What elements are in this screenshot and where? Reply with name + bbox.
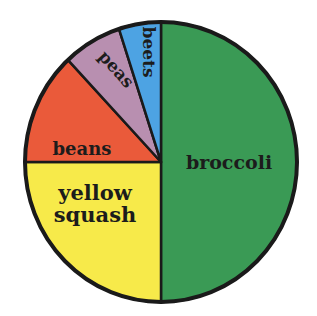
slice-label-squash: squash [54, 202, 136, 227]
slice-label-beans: beans [53, 138, 112, 159]
slice-label-beets: beets [139, 27, 159, 78]
slice-label-broccoli: broccoli [186, 151, 272, 173]
pie-chart: broccoli yellow squash beans peas beets [0, 0, 317, 316]
